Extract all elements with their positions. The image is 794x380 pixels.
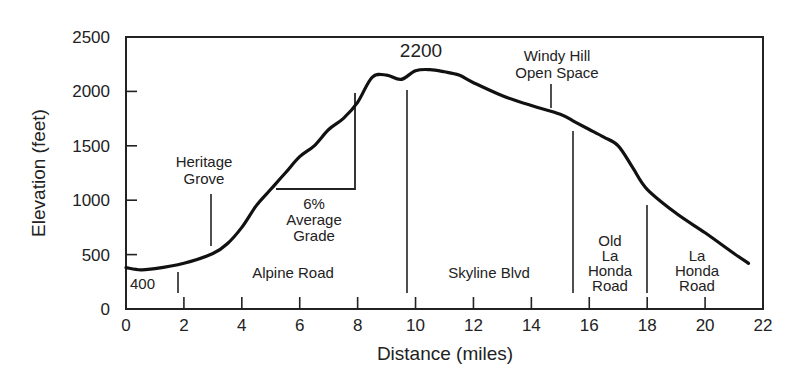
y-tick-label: 1500 [72,137,110,156]
x-axis: 0246810121416182022 [121,297,772,335]
x-tick-label: 20 [696,316,715,335]
grade-label-line3: Grade [293,227,335,244]
x-axis-title: Distance (miles) [377,343,513,364]
windy-hill-label-line1: Windy Hill [524,47,591,64]
y-tick-label: 500 [82,246,110,265]
x-tick-label: 10 [406,316,425,335]
grade-label-line1: 6% [303,195,325,212]
heritage-grove-label-line2: Grove [184,170,225,187]
x-tick-label: 8 [353,316,362,335]
start-elevation-label: 400 [130,275,155,292]
y-axis: 05001000150020002500 [72,28,137,319]
y-tick-label: 2500 [72,28,110,47]
x-tick-label: 4 [237,316,246,335]
y-axis-title: Elevation (feet) [28,109,49,237]
x-tick-label: 22 [754,316,773,335]
road-label-skyline: Skyline Blvd [448,264,530,281]
road-label-old-la-honda-4: Road [592,277,628,294]
heritage-grove-label-line1: Heritage [176,153,233,170]
x-tick-label: 6 [295,316,304,335]
road-label-la-honda-3: Road [679,277,715,294]
x-tick-label: 2 [179,316,188,335]
x-tick-label: 14 [522,316,541,335]
x-tick-label: 0 [121,316,130,335]
windy-hill-label-line2: Open Space [515,64,598,81]
grade-triangle [276,93,355,189]
elevation-profile-chart: 05001000150020002500 0246810121416182022… [0,0,794,380]
x-tick-label: 12 [464,316,483,335]
peak-elevation-label: 2200 [400,40,442,61]
x-tick-label: 16 [580,316,599,335]
y-tick-label: 0 [101,300,110,319]
road-label-alpine: Alpine Road [252,264,334,281]
y-tick-label: 2000 [72,82,110,101]
x-tick-label: 18 [638,316,657,335]
grade-label-line2: Average [286,211,342,228]
y-tick-label: 1000 [72,191,110,210]
